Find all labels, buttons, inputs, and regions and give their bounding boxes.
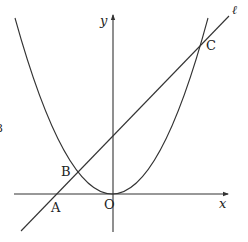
diagram: y x O ℓ A B C 3 [0,0,248,242]
point-a-label: A [50,200,61,215]
y-axis-label: y [99,13,108,28]
line-l-label: ℓ [232,3,237,17]
line-l [21,16,229,231]
x-axis-label: x [219,196,227,211]
point-c-label: C [206,38,216,53]
origin-label: O [104,197,115,212]
point-b-label: B [61,164,71,179]
parabola-curve [15,18,208,194]
margin-fragment: 3 [0,122,3,135]
